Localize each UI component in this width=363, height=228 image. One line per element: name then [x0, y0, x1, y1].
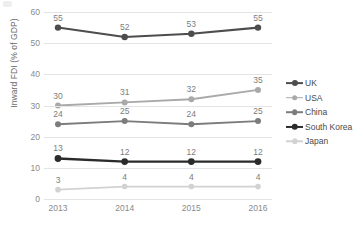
gridline [44, 106, 272, 107]
legend-marker-icon [286, 78, 303, 88]
data-label: 31 [120, 88, 129, 97]
gridline [44, 199, 272, 200]
data-label: 55 [53, 14, 62, 23]
data-point-marker [188, 31, 194, 37]
series-south-korea [55, 155, 262, 165]
series-line [58, 187, 258, 190]
data-point-marker [188, 96, 194, 102]
series-line [58, 121, 258, 124]
data-point-marker [121, 158, 128, 165]
legend-item-japan[interactable]: Japan [286, 134, 362, 149]
series-china [55, 118, 261, 127]
legend-marker-icon [286, 136, 303, 146]
data-label: 24 [187, 110, 196, 119]
series-japan [55, 184, 261, 193]
y-tick-label: 40 [18, 70, 40, 79]
data-point-marker [122, 184, 128, 190]
gridline [44, 12, 272, 13]
chart-legend: UKUSAChinaSouth KoreaJapan [286, 76, 362, 149]
data-label: 32 [187, 85, 196, 94]
gridline [44, 74, 272, 75]
legend-item-south-korea[interactable]: South Korea [286, 120, 362, 135]
data-label: 4 [256, 173, 261, 182]
data-label: 12 [187, 148, 196, 157]
legend-marker-icon [286, 122, 303, 132]
legend-marker-icon [286, 93, 303, 103]
data-label: 30 [53, 92, 62, 101]
data-point-marker [122, 118, 128, 124]
data-point-marker [255, 118, 261, 124]
data-point-marker [121, 34, 127, 40]
data-point-marker [255, 184, 261, 190]
data-label: 4 [122, 173, 127, 182]
data-point-marker [122, 99, 128, 105]
series-line [58, 158, 258, 161]
data-label: 35 [253, 76, 262, 85]
data-label: 25 [120, 107, 129, 116]
legend-label: Japan [305, 136, 328, 146]
series-line [58, 90, 258, 106]
series-uk [55, 24, 261, 40]
data-label: 12 [253, 148, 262, 157]
y-tick-label: 20 [18, 133, 40, 142]
y-tick-label: 30 [18, 102, 40, 111]
data-label: 3 [56, 176, 61, 185]
data-point-marker [255, 87, 261, 93]
legend-item-china[interactable]: China [286, 105, 362, 120]
data-point-marker [55, 187, 61, 193]
data-label: 25 [253, 107, 262, 116]
series-line [58, 28, 258, 37]
y-tick-label: 0 [18, 195, 40, 204]
x-tick-label: 2016 [249, 203, 268, 213]
data-point-marker [188, 158, 195, 165]
data-label: 53 [187, 20, 196, 29]
data-point-marker [255, 158, 262, 165]
data-label: 55 [253, 14, 262, 23]
x-tick-label: 2013 [49, 203, 68, 213]
x-axis-tick-labels: 2013201420152016 [44, 203, 272, 219]
y-tick-label: 50 [18, 39, 40, 48]
y-tick-label: 10 [18, 164, 40, 173]
data-point-marker [189, 184, 195, 190]
data-label: 52 [120, 23, 129, 32]
legend-label: China [305, 107, 327, 117]
data-point-marker [55, 121, 61, 127]
data-point-marker [188, 121, 194, 127]
x-tick-label: 2015 [182, 203, 201, 213]
legend-item-uk[interactable]: UK [286, 76, 362, 91]
data-point-marker [55, 24, 61, 30]
plot-area [44, 12, 272, 199]
legend-item-usa[interactable]: USA [286, 91, 362, 106]
data-label: 24 [53, 110, 62, 119]
legend-label: South Korea [305, 122, 352, 132]
y-axis-tick-labels: 0102030405060 [14, 0, 40, 228]
x-tick-label: 2014 [115, 203, 134, 213]
gridline [44, 43, 272, 44]
gridline [44, 137, 272, 138]
data-point-marker [55, 155, 62, 162]
data-label: 4 [189, 173, 194, 182]
data-label: 12 [120, 148, 129, 157]
legend-label: USA [305, 93, 322, 103]
fdi-line-chart: Inward FDI (% of GDP) 0102030405060 2013… [0, 0, 363, 228]
y-tick-label: 60 [18, 8, 40, 17]
legend-marker-icon [286, 107, 303, 117]
gridline [44, 168, 272, 169]
legend-label: UK [305, 78, 317, 88]
data-point-marker [255, 24, 261, 30]
data-label: 13 [53, 144, 62, 153]
